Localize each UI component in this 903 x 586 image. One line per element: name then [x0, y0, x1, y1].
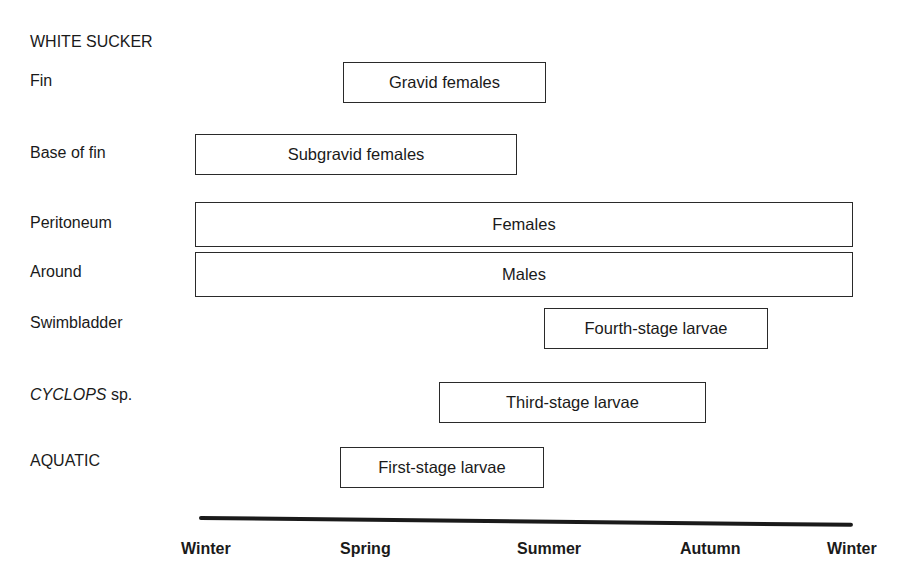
bar-label: Fourth-stage larvae: [584, 319, 727, 338]
cyclops-sp: sp.: [106, 386, 132, 403]
bar-label: Males: [502, 265, 546, 284]
row-label-fin: Fin: [30, 72, 52, 90]
bar-label: First-stage larvae: [378, 458, 505, 477]
cyclops-genus: CYCLOPS: [30, 386, 106, 403]
bar-fourth-stage-larvae: Fourth-stage larvae: [544, 308, 768, 349]
row-label-swimbladder: Swimbladder: [30, 314, 122, 332]
row-label-cyclops: CYCLOPS sp.: [30, 386, 132, 404]
row-label-around: Around: [30, 263, 82, 281]
season-label-winter-start: Winter: [181, 540, 231, 558]
chart-title: WHITE SUCKER: [30, 33, 153, 51]
bar-males: Males: [195, 252, 853, 297]
bar-subgravid-females: Subgravid females: [195, 134, 517, 175]
row-label-base-of-fin: Base of fin: [30, 144, 106, 162]
time-axis-line: [199, 516, 853, 527]
bar-label: Third-stage larvae: [506, 393, 639, 412]
bar-gravid-females: Gravid females: [343, 62, 546, 103]
bar-label: Subgravid females: [288, 145, 425, 164]
bar-third-stage-larvae: Third-stage larvae: [439, 382, 706, 423]
season-label-summer: Summer: [517, 540, 581, 558]
season-label-autumn: Autumn: [680, 540, 740, 558]
row-label-peritoneum: Peritoneum: [30, 214, 112, 232]
bar-females: Females: [195, 202, 853, 247]
bar-label: Gravid females: [389, 73, 500, 92]
season-label-winter-end: Winter: [827, 540, 877, 558]
season-label-spring: Spring: [340, 540, 391, 558]
bar-first-stage-larvae: First-stage larvae: [340, 447, 544, 488]
bar-label: Females: [492, 215, 555, 234]
row-label-aquatic: AQUATIC: [30, 452, 100, 470]
